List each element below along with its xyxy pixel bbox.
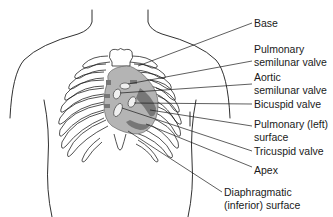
label-text: Tricuspid valve	[254, 145, 324, 157]
label-text: Pulmonary	[254, 43, 327, 56]
label-text: surface	[254, 131, 328, 144]
label-text: semilunar valve	[254, 84, 327, 97]
label-tricuspid-valve: Tricuspid valve	[254, 145, 324, 158]
heart	[104, 66, 158, 134]
label-text: Diaphragmatic	[224, 186, 300, 199]
label-text: Aortic	[254, 71, 327, 84]
heart-anatomy-diagram: Base Pulmonary semilunar valve Aortic se…	[0, 0, 333, 217]
label-apex: Apex	[254, 164, 278, 177]
label-text: Apex	[254, 164, 278, 176]
label-text: Bicuspid valve	[254, 98, 321, 110]
label-text: Pulmonary (left)	[254, 118, 328, 131]
label-base: Base	[254, 17, 278, 30]
label-diaphragmatic-surface: Diaphragmatic (inferior) surface	[224, 186, 300, 211]
label-text: (inferior) surface	[224, 199, 300, 212]
label-aortic-semilunar-valve: Aortic semilunar valve	[254, 71, 327, 96]
label-text: Base	[254, 17, 278, 29]
label-bicuspid-valve: Bicuspid valve	[254, 98, 321, 111]
label-pulmonary-left-surface: Pulmonary (left) surface	[254, 118, 328, 143]
label-pulmonary-semilunar-valve: Pulmonary semilunar valve	[254, 43, 327, 68]
label-text: semilunar valve	[254, 56, 327, 69]
